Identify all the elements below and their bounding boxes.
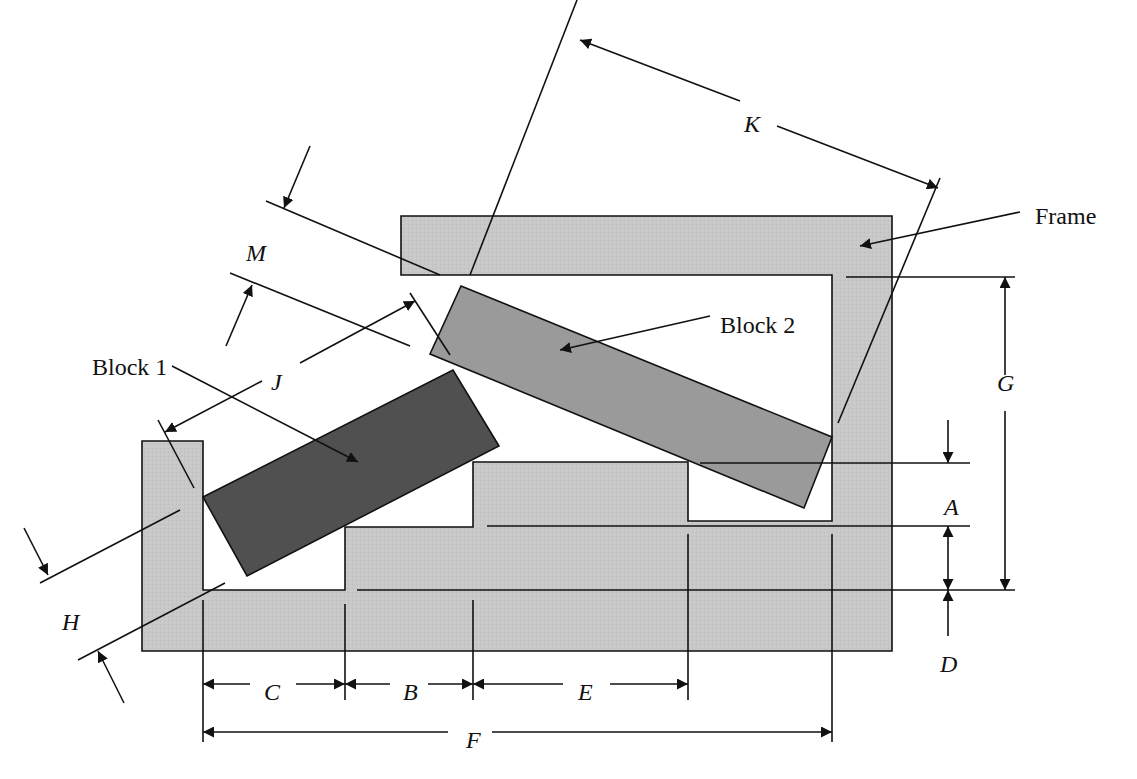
dimension-label-k: K xyxy=(743,111,762,137)
dimension-arrow-k xyxy=(580,40,740,101)
block-1-label: Block 1 xyxy=(92,354,167,380)
block2-leader-arrow xyxy=(560,316,710,350)
dimension-label-c: C xyxy=(264,679,281,705)
dimension-diagram: Frame Block 1 Block 2 A B C D E F G H J … xyxy=(0,0,1137,779)
frame-label: Frame xyxy=(1035,203,1096,229)
dimension-arrow-m xyxy=(284,146,310,208)
dimension-arrow-k xyxy=(777,126,938,188)
dimension-arrow-m xyxy=(226,285,252,346)
dimension-label-j: J xyxy=(271,369,283,395)
dimension-label-b: B xyxy=(403,679,418,705)
dimension-label-m: M xyxy=(245,240,268,266)
dimension-label-d: D xyxy=(939,651,957,677)
dimension-label-f: F xyxy=(465,727,481,753)
dimension-label-a: A xyxy=(942,494,959,520)
dimension-arrow-h xyxy=(24,528,48,575)
dimension-label-g: G xyxy=(997,370,1014,396)
dimension-arrow-j xyxy=(165,381,262,432)
dimension-label-e: E xyxy=(577,679,593,705)
dimension-arrow-j xyxy=(300,301,415,363)
extension-line xyxy=(230,273,410,346)
dimension-label-h: H xyxy=(61,609,81,635)
block-2-label: Block 2 xyxy=(720,312,795,338)
diagram-canvas: Frame Block 1 Block 2 A B C D E F G H J … xyxy=(0,0,1137,779)
dimension-arrow-h xyxy=(98,651,124,703)
